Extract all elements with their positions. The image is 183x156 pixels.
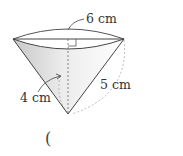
ellipse-back (13, 29, 124, 39)
answer-parenthesis: ( (45, 129, 51, 148)
cone-diagram: 6 cm 5 cm 4 cm ( (0, 0, 183, 156)
height-label: 4 cm (20, 90, 51, 105)
diameter-leader (68, 19, 84, 30)
right-angle-mark (68, 39, 76, 46)
diameter-label: 6 cm (86, 11, 117, 26)
slant-height-label: 5 cm (100, 77, 131, 92)
